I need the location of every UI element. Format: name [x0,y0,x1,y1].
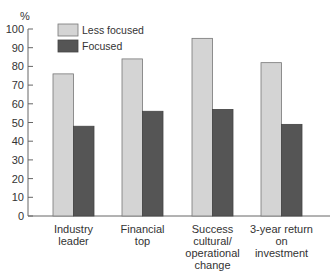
bar-less-focused [261,63,282,216]
legend-label-less-focused: Less focused [82,24,144,36]
y-tick-label: 70 [12,79,24,91]
x-category-label: change [194,259,230,271]
y-tick-label: 60 [12,98,24,110]
x-category-label: Industry [54,223,94,235]
y-tick-label: 100 [6,23,24,35]
legend-swatch-focused [58,40,78,52]
bar-focused [213,109,234,216]
bar-less-focused [53,74,74,216]
y-tick-label: 80 [12,60,24,72]
x-category-label: investment [255,247,308,259]
x-category-label: leader [58,235,89,247]
bars [53,38,302,216]
y-tick-label: 20 [12,173,24,185]
legend-label-focused: Focused [82,40,122,52]
x-category-label: top [135,235,150,247]
y-axis-unit-label: % [20,10,30,22]
bar-chart: % 0102030405060708090100 IndustryleaderF… [0,0,336,280]
x-category-label: Financial [120,223,164,235]
y-tick-label: 90 [12,42,24,54]
legend: Less focused Focused [58,24,144,52]
y-tick-label: 40 [12,135,24,147]
bar-focused [143,111,164,216]
bar-less-focused [192,38,213,216]
x-category-label: operational [185,247,239,259]
y-tick-label: 30 [12,154,24,166]
y-tick-label: 10 [12,191,24,203]
x-category-label: 3-year return [250,223,313,235]
x-axis-labels: IndustryleaderFinancialtopSuccesscultura… [54,223,313,271]
bar-focused [282,124,303,216]
y-tick-label: 0 [18,210,24,222]
x-category-label: on [275,235,287,247]
x-category-label: Success [192,223,234,235]
bar-focused [74,126,95,216]
y-tick-label: 50 [12,117,24,129]
legend-swatch-less-focused [58,24,78,36]
x-category-label: cultural/ [193,235,232,247]
bar-less-focused [122,59,143,216]
